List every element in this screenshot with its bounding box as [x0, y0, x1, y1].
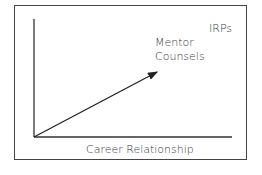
counsels-label: Counsels: [155, 50, 205, 63]
mentor-label: Mentor: [155, 36, 194, 49]
irps-label: IRPs: [209, 22, 232, 35]
growth-arrow: [34, 72, 157, 137]
x-axis-label: Career Relationship: [86, 143, 194, 156]
